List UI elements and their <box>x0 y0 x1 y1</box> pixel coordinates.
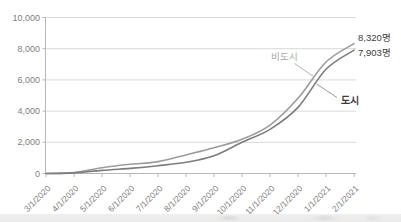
x-tick-label: 12/1/2020 <box>271 183 305 217</box>
end-value-label-nonurban: 8,320명 <box>358 32 391 43</box>
y-tick-label: 6,000 <box>17 75 40 85</box>
x-tick-label: 7/1/2020 <box>134 183 165 214</box>
x-tick-label: 3/1/2020 <box>22 183 53 214</box>
line-chart-canvas: 02,0004,0006,0008,00010,0003/1/20204/1/2… <box>0 0 401 222</box>
x-tick-label: 6/1/2020 <box>106 183 137 214</box>
x-tick-label: 2/1/2021 <box>330 183 361 214</box>
series-name-label-urban: 도시 <box>341 95 359 106</box>
x-tick-label: 1/1/2021 <box>302 183 333 214</box>
y-tick-label: 8,000 <box>17 44 40 54</box>
callout-line-nonurban <box>295 64 314 77</box>
callout-line-urban <box>317 84 338 98</box>
series-line-urban <box>46 50 354 173</box>
x-tick-label: 10/1/2020 <box>215 183 249 217</box>
x-tick-label: 5/1/2020 <box>78 183 109 214</box>
bottom-watermark-strip <box>0 214 401 222</box>
x-tick-label: 8/1/2020 <box>162 183 193 214</box>
series-line-nonurban <box>46 44 354 174</box>
x-tick-label: 4/1/2020 <box>50 183 81 214</box>
y-tick-label: 4,000 <box>17 106 40 116</box>
series-name-label-nonurban: 비도시 <box>271 51 298 62</box>
line-chart: 02,0004,0006,0008,00010,0003/1/20204/1/2… <box>0 0 401 222</box>
y-tick-label: 0 <box>35 169 40 179</box>
y-tick-label: 2,000 <box>17 137 40 147</box>
y-tick-label: 10,000 <box>12 13 40 23</box>
end-value-label-urban: 7,903명 <box>358 47 391 58</box>
